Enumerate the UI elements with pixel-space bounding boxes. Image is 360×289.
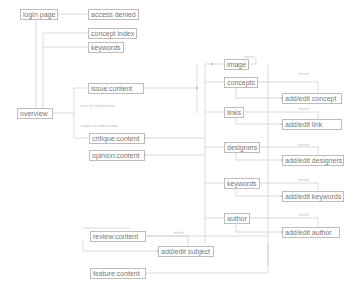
- node-review-content[interactable]: review:content: [90, 231, 146, 242]
- node-links[interactable]: links: [224, 107, 244, 118]
- node-add-edit-subject[interactable]: add/edit subject: [158, 246, 214, 257]
- node-author[interactable]: author: [224, 213, 250, 224]
- node-add-edit-link[interactable]: add/edit link: [282, 119, 342, 130]
- node-login-page[interactable]: login page: [20, 9, 58, 20]
- edge-label-issue-added: issue list added button: [80, 104, 115, 108]
- node-keywords-top[interactable]: keywords: [88, 42, 124, 53]
- node-designers[interactable]: designers: [224, 142, 260, 153]
- edge-label-refresh: refresh: [298, 72, 309, 76]
- node-add-edit-concept[interactable]: add/edit concept: [282, 93, 342, 104]
- node-critique-content[interactable]: critique:content: [89, 133, 145, 144]
- edge-label-critique-added: critique list added button: [80, 124, 118, 128]
- node-add-edit-keywords[interactable]: add/edit keywords: [282, 191, 344, 202]
- edge-label-refresh: refresh: [244, 55, 255, 59]
- node-add-edit-designers[interactable]: add/edit designers: [282, 155, 344, 166]
- node-concepts[interactable]: concepts: [224, 77, 258, 88]
- edge-label-refresh: refresh: [298, 178, 309, 182]
- node-access-denied[interactable]: access denied: [88, 9, 139, 20]
- edge-label-refresh: refresh: [298, 213, 309, 217]
- node-concept-index[interactable]: concept index: [88, 28, 137, 39]
- node-keywords[interactable]: keywords: [224, 178, 260, 189]
- node-feature-content[interactable]: feature:content: [90, 268, 146, 279]
- edge-label-refresh: refresh: [298, 107, 309, 111]
- edge-label-refresh: refresh: [173, 231, 184, 235]
- node-opinion-content[interactable]: opinion:content: [89, 150, 145, 161]
- node-add-edit-author[interactable]: add/edit author: [282, 227, 340, 238]
- edge-label-refresh: refresh: [298, 143, 309, 147]
- node-overview[interactable]: overview: [17, 108, 53, 119]
- node-issue-content[interactable]: issue:content: [88, 83, 144, 94]
- node-image[interactable]: image: [224, 59, 249, 70]
